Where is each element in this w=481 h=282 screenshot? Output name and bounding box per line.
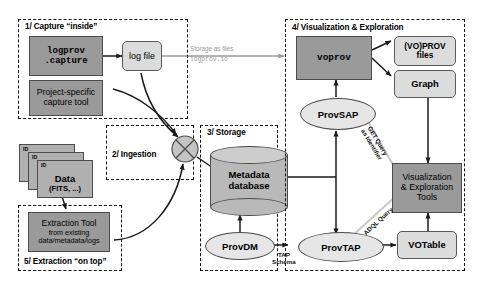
node-project-capture-tool[interactable]: Project-specific capture tool: [29, 80, 103, 116]
group-capture-label: 1/ Capture “inside”: [25, 22, 97, 31]
project-tool-line2: capture tool: [44, 98, 89, 108]
node-visualization-tools[interactable]: Visualization & Exploration Tools: [392, 163, 462, 213]
metadata-db-label: Metadata database: [210, 170, 288, 192]
data-label-line1: Data: [38, 173, 92, 184]
node-logprov-capture[interactable]: logprov .capture: [29, 36, 103, 76]
node-graph[interactable]: Graph: [394, 70, 456, 98]
node-provsap[interactable]: ProvSAP: [300, 98, 376, 130]
diagram-canvas: 1/ Capture “inside” logprov .capture Pro…: [0, 0, 481, 282]
node-merge-circle[interactable]: [171, 135, 199, 163]
group-visualization-label: 4/ Visualization & Exploration: [292, 23, 404, 32]
votable-label: VOTable: [408, 240, 445, 251]
node-voprov[interactable]: voprov: [296, 36, 372, 80]
node-extraction-tool[interactable]: Extraction Tool from existing data/metad…: [28, 212, 110, 252]
cylinder-bottom: [210, 198, 288, 216]
viztools-line3: Tools: [417, 193, 438, 203]
voprov-label: voprov: [317, 53, 351, 64]
log-file-label: log file: [129, 51, 155, 61]
note-logprov-io: logprov.io: [190, 56, 228, 63]
node-data-stack[interactable]: ID Data (FITS, ...): [37, 160, 93, 198]
note-storage-as-files: Storage as files: [190, 45, 233, 52]
group-extraction-label: 5/ Extraction “on top”: [24, 257, 106, 266]
graph-label: Graph: [411, 79, 439, 90]
metadata-db-line2: database: [210, 181, 288, 192]
logprov-capture-line2: .capture: [44, 56, 87, 66]
node-voprov-files[interactable]: (VO)PROV files: [394, 36, 456, 66]
group-ingestion-label: 2/ Ingestion: [112, 150, 156, 159]
node-metadata-database[interactable]: Metadata database: [210, 146, 288, 216]
provdm-label: ProvDM: [222, 241, 258, 252]
node-provtap[interactable]: ProvTAP: [298, 232, 384, 262]
node-votable[interactable]: VOTable: [397, 231, 457, 259]
extraction-line3: data/metadata/logs: [38, 237, 99, 245]
provsap-label: ProvSAP: [318, 109, 359, 120]
logprov-capture-line1: logprov: [47, 46, 85, 56]
provtap-label: ProvTAP: [321, 242, 360, 253]
node-provdm[interactable]: ProvDM: [205, 232, 275, 260]
cylinder-top: [210, 146, 288, 164]
group-storage-label: 3/ Storage: [207, 128, 246, 137]
data-label-line2: (FITS, ...): [38, 184, 92, 193]
voprov-files-line2: files: [417, 51, 434, 60]
data-card-id-1: ID: [41, 162, 46, 168]
node-log-file[interactable]: log file: [122, 41, 162, 71]
